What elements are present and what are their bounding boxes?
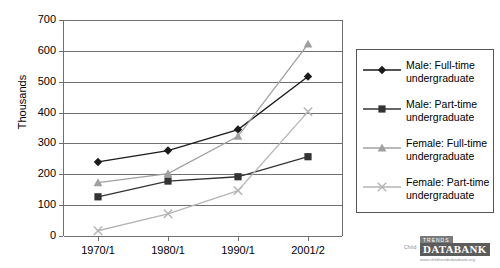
- series-line: [98, 44, 308, 183]
- legend-label-line1: Male: Full-time: [406, 59, 496, 72]
- data-point-marker: [304, 107, 312, 115]
- watermark-logo: Child TRENDS DATABANK www.childtrendsdat…: [404, 236, 496, 262]
- legend-label-line1: Female: Full-time: [406, 137, 496, 150]
- watermark-url-text: www.childtrendsdatabank.org: [420, 257, 475, 262]
- legend-label-line1: Male: Part-time: [406, 98, 496, 111]
- y-axis-tick-label: 600: [22, 45, 56, 56]
- y-axis-tick-label: 700: [22, 14, 56, 25]
- chart-legend: Male: Full-timeundergraduateMale: Part-t…: [356, 49, 494, 213]
- y-axis-tick-mark: [59, 236, 63, 237]
- legend-label: Male: Part-timeundergraduate: [406, 98, 496, 123]
- legend-label-line2: undergraduate: [406, 72, 496, 85]
- x-axis-tick-label: 1980/1: [133, 245, 203, 256]
- y-axis-tick-label: 400: [22, 107, 56, 118]
- data-point-marker: [234, 186, 242, 194]
- data-point-marker: [234, 173, 241, 180]
- x-axis-tick-mark: [98, 236, 99, 241]
- y-axis-tick-label: 100: [22, 199, 56, 210]
- x-axis-tick-mark: [238, 236, 239, 241]
- x-axis-tick-label: 1990/1: [203, 245, 273, 256]
- series-line: [98, 112, 308, 231]
- y-axis-tick-label: 300: [22, 137, 56, 148]
- data-point-marker: [94, 193, 101, 200]
- data-point-marker: [164, 210, 172, 218]
- legend-entry[interactable]: Male: Part-timeundergraduate: [362, 100, 492, 134]
- legend-entry[interactable]: Female: Full-timeundergraduate: [362, 139, 492, 173]
- watermark-child-text: Child: [404, 244, 416, 250]
- watermark-databank-text: DATABANK: [420, 243, 490, 256]
- legend-marker-icon: [362, 102, 402, 116]
- legend-marker-icon: [362, 141, 402, 155]
- data-point-marker: [164, 169, 173, 177]
- gridline: [64, 236, 342, 237]
- x-axis-tick-mark: [308, 236, 309, 241]
- legend-label: Female: Full-timeundergraduate: [406, 137, 496, 162]
- y-axis-tick-label: 200: [22, 168, 56, 179]
- legend-label: Female: Part-timeundergraduate: [406, 176, 496, 201]
- y-axis-tick-label: 0: [22, 230, 56, 241]
- line-chart: Thousands 0100200300400500600700 1970/11…: [0, 0, 500, 268]
- legend-entry[interactable]: Male: Full-timeundergraduate: [362, 61, 492, 95]
- series-1: [94, 153, 311, 200]
- legend-entry[interactable]: Female: Part-timeundergraduate: [362, 178, 492, 212]
- series-line: [98, 157, 308, 197]
- legend-label-line2: undergraduate: [406, 111, 496, 124]
- x-axis-tick-mark: [168, 236, 169, 241]
- x-axis-tick-label: 1970/1: [63, 245, 133, 256]
- x-axis-tick-label: 2001/2: [273, 245, 343, 256]
- legend-marker-icon: [362, 180, 402, 194]
- data-point-marker: [94, 158, 102, 166]
- data-point-marker: [164, 177, 171, 184]
- legend-label-line1: Female: Part-time: [406, 176, 496, 189]
- legend-label-line2: undergraduate: [406, 150, 496, 163]
- data-point-marker: [94, 227, 102, 235]
- data-point-marker: [304, 153, 311, 160]
- series-line: [98, 76, 308, 161]
- legend-marker-icon: [362, 63, 402, 77]
- series-0: [94, 72, 312, 166]
- y-axis-tick-label: 500: [22, 76, 56, 87]
- legend-label: Male: Full-timeundergraduate: [406, 59, 496, 84]
- series-layer: [63, 20, 343, 236]
- legend-label-line2: undergraduate: [406, 189, 496, 202]
- data-point-marker: [304, 40, 313, 48]
- series-3: [94, 107, 312, 235]
- data-point-marker: [164, 146, 172, 154]
